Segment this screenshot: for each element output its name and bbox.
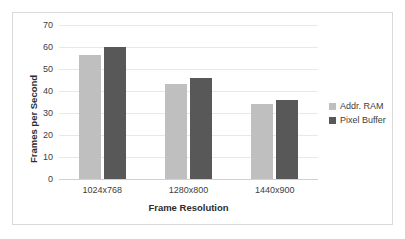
plot-area: 010203040506070 1024x7681280x8001440x900 [59,25,318,179]
y-axis-tick-label: 50 [43,65,53,74]
y-axis-title: Frames per Second [29,49,39,189]
y-axis-tick-label: 20 [43,131,53,140]
bar-group [251,25,298,179]
y-axis-tick-label: 70 [43,21,53,30]
bar-1024x768-addr-ram [79,55,101,179]
bar-group [165,25,212,179]
legend-item-pixel-buffer[interactable]: Pixel Buffer [329,113,386,127]
x-axis-tick-label: 1440x900 [255,186,295,195]
y-axis-tick-label: 60 [43,43,53,52]
legend: Addr. RAMPixel Buffer [329,99,386,127]
y-axis-tick-label: 10 [43,153,53,162]
legend-item-addr-ram[interactable]: Addr. RAM [329,99,386,113]
bar-group [79,25,126,179]
bar-1280x800-addr-ram [165,84,187,179]
y-axis-tick-label: 40 [43,87,53,96]
legend-label: Pixel Buffer [340,116,386,125]
x-axis-tick-label: 1280x800 [169,186,209,195]
bar-1440x900-pixel-buffer [276,100,298,179]
legend-label: Addr. RAM [340,102,384,111]
bars-layer [59,25,318,179]
chart-container: Frames per Second 010203040506070 1024x7… [12,12,393,225]
y-axis-tick-label: 30 [43,109,53,118]
legend-swatch-icon [329,117,336,124]
bar-1024x768-pixel-buffer [104,47,126,179]
y-axis-tick-label: 0 [48,175,53,184]
gridline [59,179,318,180]
legend-swatch-icon [329,103,336,110]
x-axis-tick-label: 1024x768 [82,186,122,195]
bar-1440x900-addr-ram [251,104,273,179]
x-axis-title: Frame Resolution [59,203,318,213]
bar-1280x800-pixel-buffer [190,78,212,179]
